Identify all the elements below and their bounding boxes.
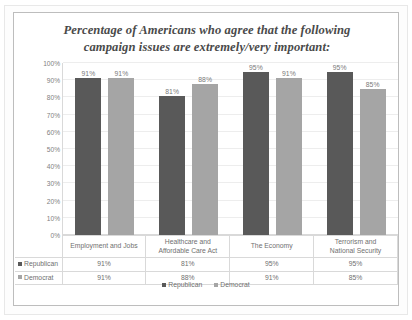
y-axis-tick-label: 30%: [47, 180, 60, 187]
plot-area: 0%10%20%30%40%50%60%70%80%90%100% 91%91%…: [28, 63, 398, 235]
bar-groups: 91%91%81%88%95%91%95%85%: [63, 63, 398, 235]
bar-slot: 81%: [159, 63, 185, 235]
column-header-line: National Security: [315, 247, 396, 256]
y-axis-tick-label: 10%: [47, 214, 60, 221]
bar-democrat-3[interactable]: [360, 89, 386, 235]
bar-slot: 91%: [108, 63, 134, 235]
row-label-text: Republican: [24, 260, 58, 267]
chart-container: Percentage of Americans who agree that t…: [13, 12, 399, 306]
data-table-column-header: Healthcare andAffordable Care Act: [146, 236, 230, 258]
bar-group: 91%91%: [63, 63, 147, 235]
data-table-cell: 95%: [314, 258, 398, 272]
column-header-line: Healthcare and: [147, 238, 228, 247]
bar-slot: 91%: [276, 63, 302, 235]
bar-value-label: 85%: [366, 81, 380, 88]
column-header-line: Employment and Jobs: [64, 242, 145, 251]
y-axis-tick-label: 60%: [47, 128, 60, 135]
plot-canvas: 91%91%81%88%95%91%95%85%: [62, 63, 398, 235]
bar-value-label: 91%: [82, 70, 96, 77]
bar-value-label: 91%: [282, 70, 296, 77]
data-table-column-header: The Economy: [230, 236, 314, 258]
bar-democrat-2[interactable]: [276, 78, 302, 235]
data-table-row-label: Republican: [15, 258, 62, 272]
bar-value-label: 95%: [333, 64, 347, 71]
legend-color-swatch-icon: [214, 283, 218, 287]
y-axis-tick-label: 80%: [47, 94, 60, 101]
table-header-row: Employment and JobsHealthcare andAfforda…: [15, 236, 398, 258]
data-table-corner: [15, 236, 62, 258]
y-axis: 0%10%20%30%40%50%60%70%80%90%100%: [28, 63, 62, 235]
bar-republican-1[interactable]: [159, 96, 185, 235]
bar-value-label: 91%: [115, 70, 129, 77]
data-table-column-header: Employment and Jobs: [62, 236, 146, 258]
y-axis-tick-label: 100%: [43, 60, 60, 67]
legend-item-republican[interactable]: Republican: [162, 281, 202, 288]
legend-item-democrat[interactable]: Democrat: [214, 281, 249, 288]
legend-item-label: Democrat: [220, 281, 249, 288]
page: Percentage of Americans who agree that t…: [0, 0, 412, 320]
y-axis-tick-label: 90%: [47, 77, 60, 84]
y-axis-tick-label: 70%: [47, 111, 60, 118]
bar-value-label: 95%: [249, 64, 263, 71]
bar-slot: 95%: [243, 63, 269, 235]
chart-title-line-1: Percentage of Americans who agree that t…: [28, 22, 386, 39]
y-axis-tick-label: 20%: [47, 197, 60, 204]
data-table-cell: 95%: [230, 258, 314, 272]
chart-data-table: Employment and JobsHealthcare andAfforda…: [15, 235, 398, 285]
bar-group: 95%91%: [231, 63, 315, 235]
bar-value-label: 88%: [198, 76, 212, 83]
bar-value-label: 81%: [165, 88, 179, 95]
column-header-line: The Economy: [231, 242, 312, 251]
bar-democrat-1[interactable]: [192, 84, 218, 235]
data-table-head: Employment and JobsHealthcare andAfforda…: [15, 236, 398, 258]
bar-group: 81%88%: [147, 63, 231, 235]
legend-color-swatch-icon: [162, 283, 166, 287]
data-table-cell: 91%: [62, 258, 146, 272]
row-label-text: Democrat: [24, 274, 53, 281]
bar-republican-0[interactable]: [75, 78, 101, 235]
series-color-swatch-icon: [18, 275, 22, 279]
legend-item-label: Republican: [168, 281, 202, 288]
bar-republican-2[interactable]: [243, 72, 269, 235]
data-table-column-header: Terrorism andNational Security: [314, 236, 398, 258]
chart-title: Percentage of Americans who agree that t…: [28, 22, 386, 56]
chart-title-line-2: campaign issues are extremely/very impor…: [28, 39, 386, 56]
bar-slot: 95%: [327, 63, 353, 235]
bar-democrat-0[interactable]: [108, 78, 134, 235]
table-row: Republican91%81%95%95%: [15, 258, 398, 272]
series-color-swatch-icon: [18, 262, 22, 266]
y-axis-tick-label: 50%: [47, 146, 60, 153]
column-header-line: Terrorism and: [315, 238, 396, 247]
bar-republican-3[interactable]: [327, 72, 353, 235]
bar-slot: 88%: [192, 63, 218, 235]
column-header-line: Affordable Care Act: [147, 247, 228, 256]
data-table-cell: 81%: [146, 258, 230, 272]
y-axis-tick-label: 40%: [47, 163, 60, 170]
bar-slot: 91%: [75, 63, 101, 235]
chart-legend: RepublicanDemocrat: [14, 281, 398, 288]
bar-group: 95%85%: [314, 63, 398, 235]
bar-slot: 85%: [360, 63, 386, 235]
